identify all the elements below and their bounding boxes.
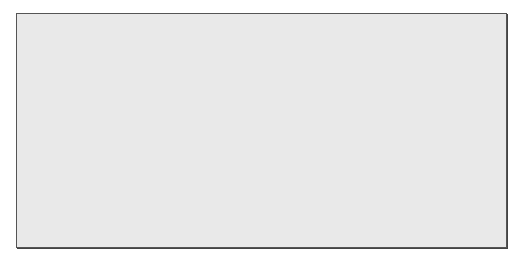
stem-plots <box>0 0 518 258</box>
